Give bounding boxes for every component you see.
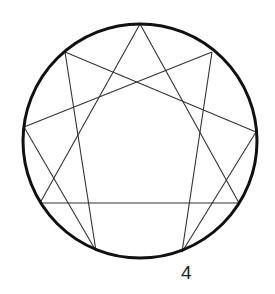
- enneagram-line: [140, 24, 239, 203]
- enneagram-line: [65, 52, 96, 251]
- enneagram-diagram: [0, 0, 275, 294]
- enneagram-line: [182, 52, 212, 252]
- point-label-4: 4: [181, 262, 192, 284]
- enneagram-circle: [23, 24, 257, 258]
- enneagram-line: [40, 24, 140, 203]
